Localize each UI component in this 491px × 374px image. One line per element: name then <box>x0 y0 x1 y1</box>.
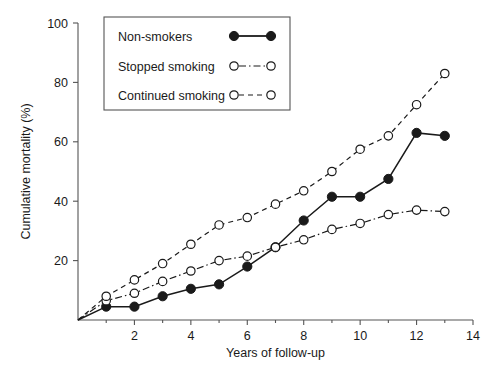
legend-marker-sample <box>267 91 275 99</box>
data-point-marker <box>300 187 308 195</box>
data-point-marker <box>356 219 364 227</box>
data-point-marker <box>215 256 223 264</box>
data-point-marker <box>356 192 365 201</box>
x-tick-label: 12 <box>410 329 424 343</box>
data-point-marker <box>356 145 364 153</box>
data-point-marker <box>271 200 279 208</box>
data-point-marker <box>299 216 308 225</box>
data-point-marker <box>130 302 139 311</box>
data-point-marker <box>412 206 420 214</box>
data-point-marker <box>130 289 138 297</box>
x-tick-label: 8 <box>300 329 307 343</box>
chart-canvas: 204060801002468101214Years of follow-upC… <box>0 0 491 374</box>
x-tick-label: 14 <box>466 329 480 343</box>
data-point-marker <box>327 192 336 201</box>
data-point-marker <box>440 131 449 140</box>
x-axis-title: Years of follow-up <box>226 346 325 360</box>
data-point-marker <box>441 69 449 77</box>
data-point-marker <box>186 284 195 293</box>
data-point-marker <box>215 221 223 229</box>
y-tick-label: 100 <box>47 17 68 31</box>
y-tick-label: 40 <box>54 195 68 209</box>
data-point-marker <box>243 262 252 271</box>
mortality-line-chart: 204060801002468101214Years of follow-upC… <box>0 0 491 374</box>
data-point-marker <box>130 276 138 284</box>
legend-marker-sample <box>267 62 275 70</box>
data-point-marker <box>328 225 336 233</box>
data-point-marker <box>102 292 110 300</box>
data-point-marker <box>384 174 393 183</box>
y-tick-label: 80 <box>54 76 68 90</box>
legend-label-stopped-smoking: Stopped smoking <box>118 60 215 74</box>
x-tick-label: 6 <box>244 329 251 343</box>
legend-marker-sample <box>229 31 238 40</box>
data-point-marker <box>187 240 195 248</box>
data-point-marker <box>384 210 392 218</box>
legend-marker-sample <box>230 91 238 99</box>
data-point-marker <box>158 259 166 267</box>
legend-label-continued-smoking: Continued smoking <box>118 89 225 103</box>
x-tick-label: 2 <box>131 329 138 343</box>
data-point-marker <box>158 292 167 301</box>
legend-marker-sample <box>230 62 238 70</box>
data-point-marker <box>328 167 336 175</box>
data-point-marker <box>412 128 421 137</box>
data-point-marker <box>243 213 251 221</box>
data-point-marker <box>158 277 166 285</box>
y-axis-title: Cumulative mortality (%) <box>19 103 33 239</box>
x-tick-label: 10 <box>353 329 367 343</box>
data-point-marker <box>300 236 308 244</box>
legend-marker-sample <box>266 31 275 40</box>
y-tick-label: 60 <box>54 135 68 149</box>
x-tick-label: 4 <box>187 329 194 343</box>
data-point-marker <box>441 207 449 215</box>
data-point-marker <box>214 280 223 289</box>
data-point-marker <box>187 267 195 275</box>
legend-label-non-smokers: Non-smokers <box>118 30 192 44</box>
data-point-marker <box>243 252 251 260</box>
data-point-marker <box>384 132 392 140</box>
data-point-marker <box>271 243 279 251</box>
y-tick-label: 20 <box>54 254 68 268</box>
data-point-marker <box>412 100 420 108</box>
